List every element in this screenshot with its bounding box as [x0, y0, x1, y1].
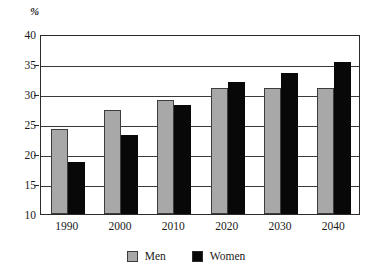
bar-women-1990	[68, 162, 85, 214]
y-axis-tick-label: 20	[2, 150, 36, 161]
bar-group	[94, 36, 147, 214]
bar-men-2010	[157, 100, 174, 214]
legend-swatch-women-icon	[192, 251, 203, 262]
bars-layer	[41, 36, 359, 214]
bar-group	[41, 36, 94, 214]
y-axis-unit-label: %	[30, 5, 39, 17]
y-axis-tick-label: 25	[2, 120, 36, 131]
y-axis-tick-mark	[34, 95, 39, 96]
x-axis-tick-label: 2030	[250, 220, 310, 232]
bar-men-2000	[104, 110, 121, 214]
y-axis-tick-mark	[34, 65, 39, 66]
x-axis-tick-label: 2020	[197, 220, 257, 232]
bar-chart: % 10152025303540 19902000201020202030204…	[0, 0, 372, 279]
x-axis-tick-label: 2040	[303, 220, 363, 232]
x-axis-tick-label: 2000	[90, 220, 150, 232]
legend-item-men: Men	[127, 250, 166, 262]
x-axis-tick-label: 2010	[143, 220, 203, 232]
y-axis-tick-mark	[34, 155, 39, 156]
bar-group	[254, 36, 307, 214]
x-axis-tick-label: 1990	[37, 220, 97, 232]
chart-legend: MenWomen	[0, 250, 372, 262]
bar-women-2040	[334, 62, 351, 214]
legend-label: Men	[145, 250, 166, 262]
legend-swatch-men-icon	[127, 251, 138, 262]
bar-men-2020	[211, 88, 228, 214]
bar-men-2040	[317, 88, 334, 214]
bar-women-2010	[174, 105, 191, 214]
bar-men-1990	[51, 129, 68, 214]
bar-women-2030	[281, 73, 298, 214]
bar-group	[201, 36, 254, 214]
y-axis-tick-label: 40	[2, 30, 36, 41]
y-axis-tick-label: 30	[2, 90, 36, 101]
bar-group	[308, 36, 361, 214]
bar-women-2000	[121, 135, 138, 214]
legend-item-women: Women	[192, 250, 245, 262]
bar-women-2020	[228, 82, 245, 214]
y-axis-tick-label: 10	[2, 210, 36, 221]
y-axis-tick-label: 35	[2, 60, 36, 71]
bar-men-2030	[264, 88, 281, 214]
legend-label: Women	[210, 250, 245, 262]
y-axis-tick-label: 15	[2, 180, 36, 191]
plot-area	[40, 35, 360, 215]
bar-group	[148, 36, 201, 214]
y-axis-tick-mark	[34, 125, 39, 126]
y-axis-tick-mark	[34, 185, 39, 186]
